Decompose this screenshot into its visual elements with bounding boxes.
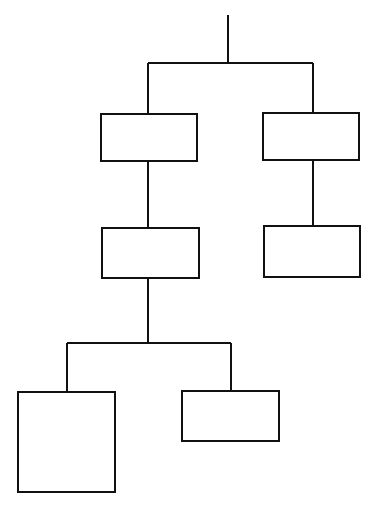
- tree-node-1: [100, 113, 198, 162]
- tree-node-3: [101, 227, 200, 279]
- tree-node-5: [17, 391, 116, 493]
- tree-node-2: [262, 112, 360, 161]
- tree-node-4: [263, 225, 361, 278]
- tree-node-6: [181, 390, 280, 442]
